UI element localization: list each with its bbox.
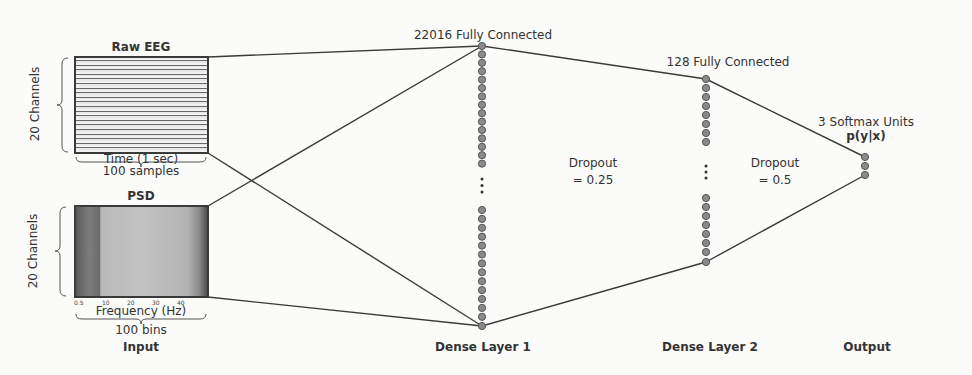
output-section-label: Output bbox=[843, 340, 890, 354]
dense-layer-2-title: 128 Fully Connected bbox=[667, 55, 790, 69]
psd-bins-label: 100 bins bbox=[115, 323, 167, 337]
raw-eeg-channels-label: 20 Channels bbox=[28, 64, 42, 144]
output-title: 3 Softmax Units bbox=[818, 115, 914, 129]
raw-eeg-samples-label: 100 samples bbox=[103, 164, 180, 178]
psd-frequency-label: Frequency (Hz) bbox=[96, 304, 187, 318]
dense-layer-2-label: Dense Layer 2 bbox=[662, 340, 758, 354]
dense-layer-1-ellipsis bbox=[481, 178, 484, 194]
dropout-2-label: Dropout bbox=[751, 156, 800, 170]
output-formula: p(y|x) bbox=[846, 129, 886, 143]
raw-eeg-plot bbox=[74, 56, 209, 154]
psd-tick-0: 0.5 bbox=[74, 299, 84, 306]
dropout-1-value: = 0.25 bbox=[573, 173, 614, 187]
psd-plot bbox=[74, 205, 209, 298]
dropout-2-value: = 0.5 bbox=[759, 173, 792, 187]
psd-channels-label: 20 Channels bbox=[26, 211, 40, 291]
output-nodes bbox=[861, 153, 868, 178]
dense-layer-1-label: Dense Layer 1 bbox=[435, 340, 531, 354]
dense-layer-1-title: 22016 Fully Connected bbox=[414, 28, 552, 42]
dropout-1-label: Dropout bbox=[569, 156, 618, 170]
psd-title: PSD bbox=[127, 189, 154, 203]
input-section-label: Input bbox=[123, 340, 159, 354]
dense-layer-2-ellipsis bbox=[705, 165, 708, 180]
raw-eeg-title: Raw EEG bbox=[112, 40, 171, 54]
